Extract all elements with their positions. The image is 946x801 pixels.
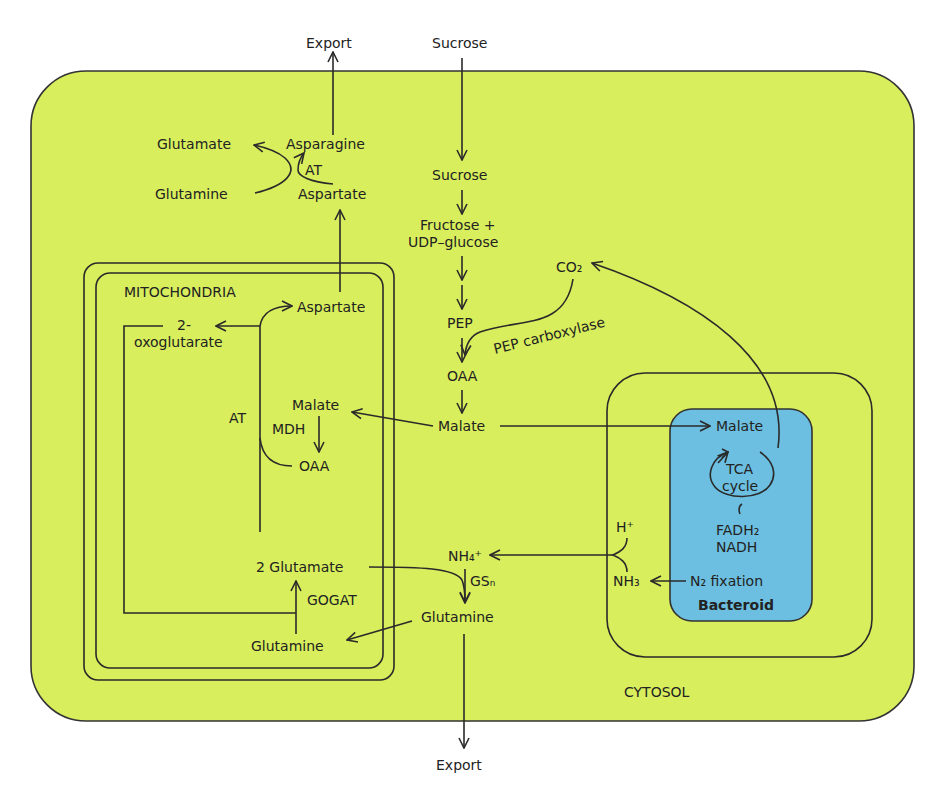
bacteroid-compartment — [670, 409, 812, 621]
bacteroid-malate-label: Malate — [716, 418, 763, 434]
udp-glucose-label: UDP–glucose — [408, 234, 498, 250]
malate-label: Malate — [438, 418, 485, 434]
asparagine-label: Asparagine — [286, 136, 365, 152]
fadh2-label: FADH₂ — [716, 522, 759, 538]
mito-malate-label: Malate — [292, 397, 339, 413]
co2-label: CO₂ — [556, 259, 582, 275]
cyto-glutamine-label: Glutamine — [421, 609, 494, 625]
oxoglutarate-line2: oxoglutarate — [134, 334, 223, 350]
n2-fixation-label: N₂ fixation — [690, 573, 763, 589]
mito-aspartate-label: Aspartate — [297, 299, 365, 315]
tca-line1: TCA — [725, 461, 754, 477]
export-bottom-label: Export — [436, 757, 482, 773]
oxoglutarate-line1: 2- — [177, 317, 191, 333]
nadh-label: NADH — [716, 539, 757, 555]
cytosol-label: CYTOSOL — [624, 684, 690, 700]
aspartate-label: Aspartate — [298, 186, 366, 202]
mito-at-label: AT — [229, 410, 246, 426]
glutamine-label: Glutamine — [155, 186, 228, 202]
mito-glutamine-label: Glutamine — [251, 638, 324, 654]
tca-line2: cycle — [722, 478, 758, 494]
glutamate-label: Glutamate — [157, 136, 231, 152]
h-plus-label: H⁺ — [616, 519, 634, 535]
mito-glutamate-label: 2 Glutamate — [256, 559, 343, 575]
export-top-label: Export — [306, 35, 352, 51]
sucrose-label: Sucrose — [432, 167, 487, 183]
bacteroid-label: Bacteroid — [698, 597, 774, 613]
nh4-label: NH₄⁺ — [448, 548, 482, 564]
oaa-label: OAA — [447, 368, 478, 384]
sucrose-input-label: Sucrose — [432, 35, 487, 51]
at-enzyme-label: AT — [305, 162, 322, 178]
gogat-label: GOGAT — [307, 592, 357, 608]
mito-oaa-label: OAA — [299, 458, 330, 474]
fructose-label: Fructose + — [420, 217, 496, 233]
gs-label: GSₙ — [470, 573, 495, 589]
mitochondria-label: MITOCHONDRIA — [124, 284, 236, 300]
nh3-label: NH₃ — [613, 573, 640, 589]
pep-label: PEP — [447, 315, 473, 331]
nodule-metabolism-diagram: Export Sucrose Glutamate Asparagine AT G… — [0, 0, 946, 801]
mdh-label: MDH — [272, 421, 305, 437]
